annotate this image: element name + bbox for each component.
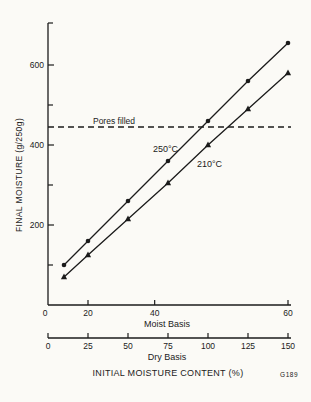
pores-filled-label: Pores filled — [93, 116, 135, 126]
data-point-250c — [286, 41, 291, 46]
chart: 20040060002040600255075100125150 FINAL M… — [0, 0, 311, 402]
dry-tick-label: 25 — [83, 341, 93, 351]
series-label-250c: 250°C — [153, 144, 179, 154]
data-point-250c — [166, 159, 171, 164]
data-point-210c — [285, 70, 291, 76]
series-line-250c — [64, 43, 288, 265]
y-tick-label: 200 — [30, 220, 44, 230]
series-label-210c: 210°C — [197, 159, 223, 169]
data-point-250c — [126, 199, 131, 204]
y-tick-label: 400 — [30, 140, 44, 150]
dry-tick-label: 100 — [201, 341, 215, 351]
dry-tick-label: 150 — [281, 341, 295, 351]
moist-tick-label: 60 — [283, 308, 293, 318]
y-tick-label: 600 — [30, 60, 44, 70]
x-axis-title: INITIAL MOISTURE CONTENT (%) — [93, 368, 244, 378]
moist-tick-label: 40 — [150, 308, 160, 318]
y-axis-title: FINAL MOISTURE (g/250g) — [14, 118, 24, 232]
dry-tick-label: 50 — [123, 341, 133, 351]
moist-basis-axis-title: Moist Basis — [144, 319, 191, 329]
data-point-250c — [246, 79, 251, 84]
data-point-250c — [62, 263, 67, 268]
figure: 20040060002040600255075100125150 FINAL M… — [0, 0, 311, 402]
dry-tick-label: 75 — [163, 341, 173, 351]
moist-tick-label: 0 — [43, 308, 48, 318]
data-point-250c — [206, 119, 211, 124]
chart-generated-layer: 20040060002040600255075100125150 — [30, 23, 296, 351]
series-line-210c — [64, 73, 288, 277]
figure-code-label: G189 — [280, 371, 298, 378]
dry-tick-label: 125 — [241, 341, 255, 351]
dry-tick-label: 0 — [46, 341, 51, 351]
moist-tick-label: 20 — [83, 308, 93, 318]
data-point-250c — [86, 239, 91, 244]
dry-basis-axis-title: Dry Basis — [148, 352, 187, 362]
